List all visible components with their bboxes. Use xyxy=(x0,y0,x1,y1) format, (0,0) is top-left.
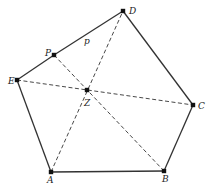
label-D: D xyxy=(128,6,136,16)
label-E: E xyxy=(7,76,15,86)
diagonal-lines xyxy=(17,11,193,172)
edge-AB xyxy=(51,171,164,172)
point-C xyxy=(191,103,195,107)
point-B xyxy=(162,169,166,173)
point-E xyxy=(15,78,19,82)
edge-DP xyxy=(54,11,123,55)
edge-PE xyxy=(17,55,54,80)
point-P xyxy=(52,53,56,57)
label-Z: Z xyxy=(83,98,91,108)
edge-EA xyxy=(17,80,51,172)
diagonal-PB xyxy=(54,55,164,171)
point-A xyxy=(49,170,53,174)
diagonal-EC xyxy=(17,80,193,105)
edge-BC xyxy=(164,105,193,171)
diagram-canvas: DPEZCAB p xyxy=(0,0,209,188)
label-P: P xyxy=(44,48,52,58)
label-A: A xyxy=(46,175,54,185)
point-D xyxy=(121,9,125,13)
pentagon-edges xyxy=(17,11,193,172)
vertex-labels: DPEZCAB xyxy=(7,6,205,185)
point-Z xyxy=(85,88,89,92)
label-C: C xyxy=(198,101,205,111)
vertex-points xyxy=(15,9,195,174)
label-B: B xyxy=(161,174,169,184)
segment-label-p: p xyxy=(84,36,90,46)
edge-CD xyxy=(123,11,193,105)
pentagon-diagram: DPEZCAB p xyxy=(0,0,209,188)
